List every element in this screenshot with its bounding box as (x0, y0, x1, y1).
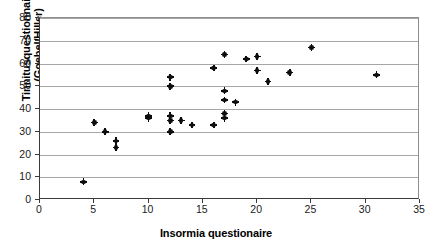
y-tick-label-10: 10 (19, 171, 31, 181)
data-point (287, 70, 292, 75)
y-tick-label-30: 30 (19, 126, 31, 136)
data-point (190, 123, 195, 128)
y-tick-label-40: 40 (19, 103, 31, 113)
data-point (92, 120, 97, 125)
data-point (255, 54, 260, 59)
data-point (168, 118, 173, 123)
data-point (168, 129, 173, 134)
data-point (222, 98, 227, 103)
gridline-y-50 (40, 86, 418, 87)
data-point (266, 79, 271, 84)
data-point (222, 52, 227, 57)
x-tick-label-10: 10 (128, 204, 168, 215)
data-point (168, 84, 173, 89)
data-point (146, 116, 151, 121)
gridline-y-80 (40, 18, 418, 19)
x-tick-label-25: 25 (290, 204, 330, 215)
x-tick-label-20: 20 (236, 204, 276, 215)
data-point (222, 116, 227, 121)
y-tick-label-80: 80 (19, 12, 31, 22)
plot-area (39, 17, 419, 199)
data-point (244, 57, 249, 62)
x-tick-label-5: 5 (73, 204, 113, 215)
y-tick-label-50: 50 (19, 80, 31, 90)
x-tick-label-0: 0 (19, 204, 59, 215)
data-point (374, 73, 379, 78)
gridline-y-40 (40, 109, 418, 110)
gridline-y-20 (40, 155, 418, 156)
x-tick-label-30: 30 (345, 204, 385, 215)
scatter-chart: Tinnitusquestionnaire (Goebel/Hiller) 01… (0, 0, 432, 243)
x-tick-label-15: 15 (182, 204, 222, 215)
data-point (233, 100, 238, 105)
gridline-y-30 (40, 132, 418, 133)
gridline-y-60 (40, 64, 418, 65)
data-point (211, 66, 216, 71)
y-tick-label-60: 60 (19, 58, 31, 68)
data-point (103, 129, 108, 134)
data-point (222, 89, 227, 94)
data-point (168, 75, 173, 80)
gridline-y-70 (40, 41, 418, 42)
data-point (81, 180, 86, 185)
data-point (211, 123, 216, 128)
data-point (179, 118, 184, 123)
x-tick-label-35: 35 (399, 204, 432, 215)
y-tick-label-70: 70 (19, 35, 31, 45)
data-point (114, 145, 119, 150)
x-axis-title: Insormia questionaire (0, 227, 432, 239)
y-tick-label-20: 20 (19, 149, 31, 159)
data-point (114, 139, 119, 144)
data-point (255, 68, 260, 73)
gridline-y-10 (40, 177, 418, 178)
y-tick-label-0: 0 (25, 194, 31, 204)
data-point (309, 45, 314, 50)
